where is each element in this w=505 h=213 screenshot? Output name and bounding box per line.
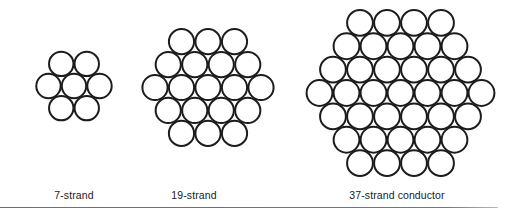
strand-circle — [401, 103, 427, 129]
strand-circle — [169, 121, 194, 146]
strand-circle — [374, 10, 400, 36]
strand-circle — [401, 150, 427, 176]
strand-circle — [442, 33, 468, 59]
strand-circle — [374, 57, 400, 83]
strand-circle — [169, 29, 194, 54]
conductor-37-strand — [307, 10, 495, 176]
conductor-7-strand — [36, 52, 111, 121]
stranded-conductor-diagram — [0, 0, 505, 213]
strand-circle — [49, 52, 73, 76]
label-37-strand-conductor: 37-strand conductor — [349, 189, 444, 201]
strand-circle — [388, 80, 414, 106]
strand-circle — [388, 127, 414, 153]
strand-circle — [75, 52, 99, 76]
strand-circle — [361, 80, 387, 106]
label-19-strand: 19-strand — [171, 189, 216, 201]
strand-circle — [374, 103, 400, 129]
strand-circle — [195, 29, 220, 54]
strand-circle — [36, 74, 60, 98]
strand-circle — [87, 74, 111, 98]
strand-circle — [428, 150, 454, 176]
strand-circle — [347, 10, 373, 36]
strand-circle — [222, 121, 247, 146]
strand-circle — [169, 75, 194, 100]
strand-circle — [455, 57, 481, 83]
strand-circle — [442, 127, 468, 153]
strand-circle — [428, 57, 454, 83]
strand-circle — [235, 52, 260, 77]
strand-circle — [347, 103, 373, 129]
strand-circle — [442, 80, 468, 106]
strand-circle — [248, 75, 273, 100]
conductor-19-strand — [142, 29, 273, 146]
strand-circle — [347, 57, 373, 83]
label-7-strand: 7-strand — [54, 189, 93, 201]
strand-circle — [469, 80, 495, 106]
strand-circle — [320, 57, 346, 83]
strand-circle — [415, 80, 441, 106]
strand-circle — [195, 75, 220, 100]
strand-circle — [361, 33, 387, 59]
strand-circle — [142, 75, 167, 100]
strand-circle — [428, 10, 454, 36]
strand-circle — [156, 52, 181, 77]
strand-circle — [222, 75, 247, 100]
strand-circle — [401, 10, 427, 36]
strand-circle — [415, 127, 441, 153]
strand-circle — [334, 33, 360, 59]
strand-circle — [75, 96, 99, 120]
strand-circle — [49, 96, 73, 120]
strand-circle — [401, 57, 427, 83]
strand-circle — [334, 80, 360, 106]
strand-circle — [374, 150, 400, 176]
strand-circle — [195, 121, 220, 146]
strand-circle — [320, 103, 346, 129]
strand-circle — [455, 103, 481, 129]
strand-circle — [388, 33, 414, 59]
strand-circle — [209, 98, 234, 123]
strand-circle — [415, 33, 441, 59]
strand-circle — [334, 127, 360, 153]
strand-circle — [222, 29, 247, 54]
bottom-divider-line — [0, 207, 498, 209]
strand-circle — [307, 80, 333, 106]
strand-circle — [182, 98, 207, 123]
strand-circle — [62, 74, 86, 98]
strand-circle — [182, 52, 207, 77]
strand-circle — [209, 52, 234, 77]
strand-circle — [156, 98, 181, 123]
strand-circle — [347, 150, 373, 176]
strand-circle — [361, 127, 387, 153]
strand-circle — [428, 103, 454, 129]
strand-circle — [235, 98, 260, 123]
